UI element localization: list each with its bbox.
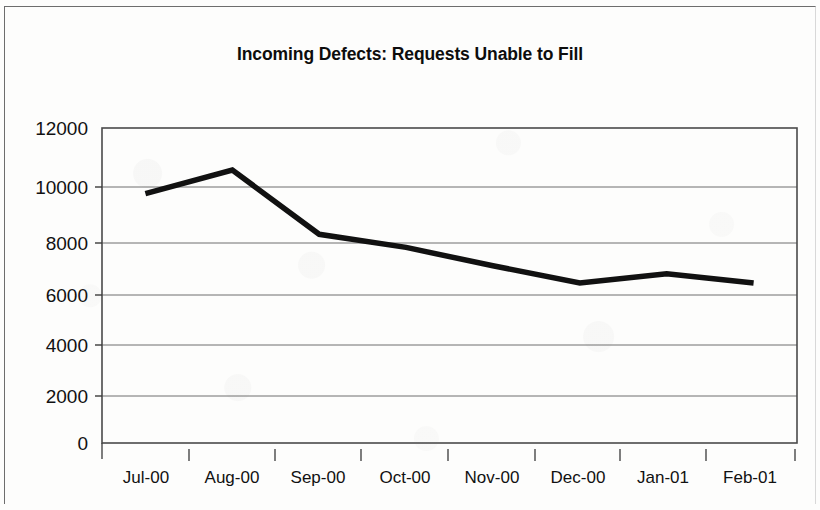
line-chart-plot: 12000 10000 8000 6000 4000 2000 0 Jul-00… (0, 0, 820, 510)
y-axis-label-0: 0 (77, 433, 88, 454)
gridlines (102, 187, 797, 396)
x-axis-label-jul-00: Jul-00 (123, 468, 169, 487)
y-axis-label-10000: 10000 (35, 177, 88, 198)
x-axis-label-feb-01: Feb-01 (723, 468, 777, 487)
y-axis-label-6000: 6000 (46, 285, 88, 306)
y-axis-label-12000: 12000 (35, 118, 88, 139)
x-axis-label-oct-00: Oct-00 (379, 468, 430, 487)
x-axis-label-aug-00: Aug-00 (205, 468, 260, 487)
x-axis-label-jan-01: Jan-01 (637, 468, 689, 487)
scanned-page: Incoming Defects: Requests Unable to Fil… (0, 0, 820, 510)
y-axis-label-2000: 2000 (46, 386, 88, 407)
x-axis-label-sep-00: Sep-00 (291, 468, 346, 487)
x-axis-label-dec-00: Dec-00 (551, 468, 606, 487)
x-axis-ticks (102, 443, 795, 461)
y-axis-ticks (95, 187, 102, 396)
y-axis-label-4000: 4000 (46, 335, 88, 356)
y-axis-label-8000: 8000 (46, 233, 88, 254)
x-axis-label-nov-00: Nov-00 (465, 468, 520, 487)
